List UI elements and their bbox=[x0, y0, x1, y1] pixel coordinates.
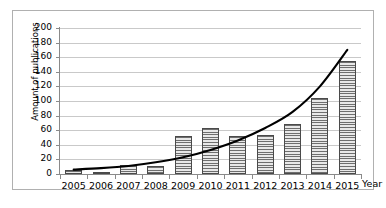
x-tick-mark bbox=[197, 175, 198, 179]
chart-figure: Amount of publications Year 020406080100… bbox=[0, 0, 386, 208]
y-tick-label: 100 bbox=[22, 96, 52, 105]
y-tick-mark bbox=[56, 101, 60, 102]
x-axis-line bbox=[60, 174, 362, 175]
y-tick-mark bbox=[56, 130, 60, 131]
trend-line bbox=[60, 28, 361, 174]
x-tick-label: 2015 bbox=[330, 181, 364, 191]
y-tick-label: 160 bbox=[22, 52, 52, 61]
y-tick-label: 20 bbox=[22, 154, 52, 163]
x-axis-title: Year bbox=[362, 179, 382, 189]
x-tick-mark bbox=[306, 175, 307, 179]
y-tick-label: 60 bbox=[22, 125, 52, 134]
y-tick-label: 40 bbox=[22, 140, 52, 149]
x-tick-mark bbox=[252, 175, 253, 179]
y-tick-mark bbox=[56, 28, 60, 29]
plot-area bbox=[60, 28, 361, 174]
x-tick-mark bbox=[115, 175, 116, 179]
x-tick-mark bbox=[169, 175, 170, 179]
y-tick-mark bbox=[56, 43, 60, 44]
x-tick-mark bbox=[87, 175, 88, 179]
y-tick-label: 0 bbox=[22, 169, 52, 178]
y-tick-label: 140 bbox=[22, 67, 52, 76]
x-tick-mark bbox=[224, 175, 225, 179]
chart-frame: Amount of publications Year 020406080100… bbox=[12, 10, 374, 190]
y-tick-mark bbox=[56, 159, 60, 160]
y-tick-mark bbox=[56, 57, 60, 58]
y-tick-mark bbox=[56, 116, 60, 117]
y-tick-mark bbox=[56, 72, 60, 73]
x-tick-mark bbox=[142, 175, 143, 179]
x-tick-mark bbox=[279, 175, 280, 179]
y-tick-mark bbox=[56, 145, 60, 146]
x-tick-mark bbox=[334, 175, 335, 179]
x-tick-mark bbox=[361, 175, 362, 179]
y-tick-label: 200 bbox=[22, 23, 52, 32]
y-tick-label: 180 bbox=[22, 38, 52, 47]
y-tick-mark bbox=[56, 86, 60, 87]
x-tick-mark bbox=[60, 175, 61, 179]
y-tick-label: 80 bbox=[22, 111, 52, 120]
y-tick-label: 120 bbox=[22, 81, 52, 90]
